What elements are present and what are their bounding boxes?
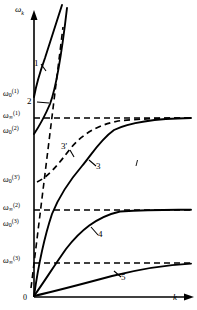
y-axis-title-sub: k bbox=[21, 10, 24, 16]
curve-label-5: 5 bbox=[121, 272, 126, 282]
ytick-sup: (2) bbox=[12, 125, 19, 131]
y-axis-title: ωk bbox=[15, 4, 24, 16]
curve-label-4: 4 bbox=[98, 229, 103, 239]
curve-label-1: 1 bbox=[34, 58, 39, 68]
curve-2 bbox=[34, 8, 67, 134]
curve-3 bbox=[34, 118, 191, 296]
ytick-omega-0-1: ω0(1) bbox=[3, 88, 19, 98]
curve-label-3: 3 bbox=[96, 161, 101, 171]
ytick-sup: (3') bbox=[12, 174, 20, 180]
curve-label-2: 2 bbox=[27, 96, 32, 106]
leader-curve-4 bbox=[91, 227, 98, 235]
ytick-omega-inf-3: ω∞(3) bbox=[3, 255, 20, 265]
ytick-sup: (3) bbox=[12, 218, 19, 224]
origin-label: 0 bbox=[23, 293, 27, 302]
leader-curve-3-prime bbox=[70, 150, 74, 157]
ytick-omega-inf-1: ω∞(1) bbox=[3, 110, 20, 120]
axis-lines bbox=[31, 10, 195, 301]
curve-label-3-prime: 3' bbox=[61, 141, 67, 151]
ytick-sup: (1) bbox=[13, 110, 20, 116]
asymptote-lines bbox=[34, 118, 191, 263]
y-axis-arrowhead bbox=[31, 10, 38, 20]
ytick-omega-0-3prime: ω0(3') bbox=[3, 174, 20, 184]
ytick-sup: (2) bbox=[13, 202, 20, 208]
curve-5 bbox=[34, 264, 191, 296]
ytick-sup: (3) bbox=[13, 255, 20, 261]
plot-canvas bbox=[0, 0, 197, 310]
stray-print-mark bbox=[136, 160, 138, 166]
curve-1 bbox=[34, 5, 62, 97]
ytick-omega-0-3: ω0(3) bbox=[3, 218, 19, 228]
ytick-sup: (1) bbox=[12, 88, 19, 94]
ytick-omega-inf-2: ω∞(2) bbox=[3, 202, 20, 212]
ytick-omega-0-2: ω0(2) bbox=[3, 125, 19, 135]
x-axis-title: k bbox=[173, 292, 177, 302]
dispersion-figure: ωk k 0 ω0(1) ω∞(1) ω0(2) ω0(3') ω∞(2) ω0… bbox=[0, 0, 197, 310]
x-axis-arrowhead bbox=[184, 294, 194, 301]
curve-4 bbox=[34, 210, 191, 296]
leader-curve-2 bbox=[37, 102, 49, 103]
leader-curve-3 bbox=[89, 160, 96, 166]
